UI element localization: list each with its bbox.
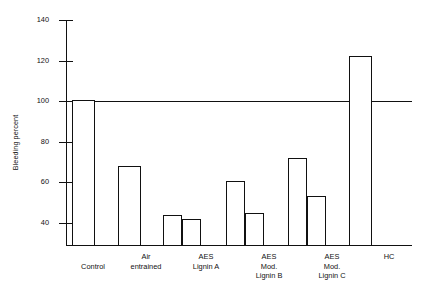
bar-air-entrained bbox=[118, 166, 141, 245]
x-label-hc: HC bbox=[354, 252, 424, 262]
y-tick-label-40: 40 bbox=[41, 219, 49, 226]
bar-chart-figure: Bleeding percent 40 60 80 100 120 140 bbox=[0, 0, 424, 294]
y-tick-mark-40: 40 bbox=[59, 223, 73, 224]
bar-aes-mod-lignin-b-2 bbox=[245, 213, 264, 245]
y-tick-mark-80: 80 bbox=[59, 142, 73, 143]
y-tick-label-80: 80 bbox=[41, 138, 49, 145]
bar-aes-mod-lignin-b-1 bbox=[226, 181, 245, 245]
x-axis-category-labels: Control Air entrained AES Lignin A AES M… bbox=[66, 248, 412, 294]
x-label-aes-lignin-a: AES Lignin A bbox=[171, 252, 241, 271]
bar-aes-lignin-a-2 bbox=[182, 219, 201, 245]
y-axis-title-text: Bleeding percent bbox=[11, 83, 20, 203]
bar-aes-mod-lignin-c-1 bbox=[288, 158, 307, 245]
bar-aes-mod-lignin-c-2 bbox=[307, 196, 326, 246]
x-label-aes-mod-lignin-b: AES Mod. Lignin B bbox=[234, 252, 304, 281]
y-axis-line bbox=[66, 20, 67, 246]
y-tick-label-100: 100 bbox=[37, 97, 49, 104]
y-tick-mark-140: 140 bbox=[59, 20, 73, 21]
y-tick-label-60: 60 bbox=[41, 178, 49, 185]
plot-area: 40 60 80 100 120 140 bbox=[66, 20, 412, 246]
bar-aes-lignin-a-1 bbox=[163, 215, 182, 245]
y-tick-mark-60: 60 bbox=[59, 182, 73, 183]
y-tick-label-140: 140 bbox=[37, 16, 49, 23]
y-tick-label-120: 120 bbox=[37, 57, 49, 64]
bar-control bbox=[72, 100, 95, 245]
bar-hc bbox=[349, 56, 372, 245]
x-axis-line bbox=[66, 245, 412, 246]
y-tick-mark-120: 120 bbox=[59, 61, 73, 62]
y-axis-title: Bleeding percent bbox=[0, 0, 24, 294]
